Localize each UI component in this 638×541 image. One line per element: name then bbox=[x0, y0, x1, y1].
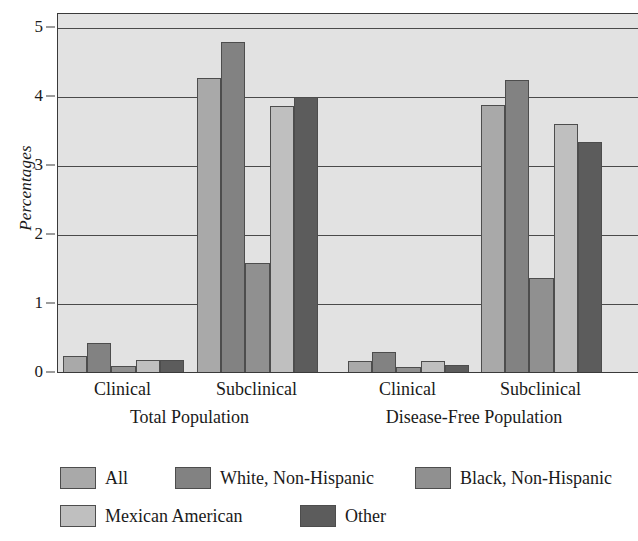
group-label-2: Clinical bbox=[379, 379, 436, 400]
legend-swatch-icon bbox=[175, 467, 211, 489]
bar bbox=[270, 106, 294, 373]
legend-label: Mexican American bbox=[105, 507, 242, 525]
bar bbox=[578, 142, 602, 373]
x-axis-line bbox=[57, 372, 638, 373]
legend-swatch-icon bbox=[60, 505, 96, 527]
plot-area bbox=[57, 13, 638, 373]
legend-swatch-icon bbox=[415, 467, 451, 489]
gridline-3 bbox=[58, 166, 638, 167]
bar bbox=[554, 124, 578, 373]
legend-label: White, Non-Hispanic bbox=[220, 469, 374, 487]
gridline-5 bbox=[58, 28, 638, 29]
legend-label: Other bbox=[345, 507, 386, 525]
chart-legend: AllWhite, Non-HispanicBlack, Non-Hispani… bbox=[60, 462, 638, 538]
group-label-1: Subclinical bbox=[216, 379, 297, 400]
legend-swatch-icon bbox=[60, 467, 96, 489]
bar bbox=[505, 80, 529, 373]
gridline-2 bbox=[58, 235, 638, 236]
y-tick-label: 0 bbox=[17, 362, 43, 382]
bar bbox=[197, 78, 221, 373]
plot-inner bbox=[58, 14, 638, 373]
y-tick-mark bbox=[46, 164, 55, 165]
legend-item[interactable]: Black, Non-Hispanic bbox=[415, 462, 612, 494]
legend-item[interactable]: White, Non-Hispanic bbox=[175, 462, 374, 494]
y-tick-mark bbox=[46, 372, 55, 373]
legend-label: All bbox=[105, 469, 128, 487]
bar bbox=[529, 278, 553, 373]
panel-label-0: Total Population bbox=[130, 407, 249, 428]
legend-item[interactable]: All bbox=[60, 462, 128, 494]
y-tick-mark bbox=[46, 233, 55, 234]
bar bbox=[87, 343, 111, 373]
group-label-3: Subclinical bbox=[500, 379, 581, 400]
y-tick-label: 5 bbox=[17, 17, 43, 37]
bar bbox=[63, 356, 87, 373]
bar bbox=[481, 105, 505, 373]
legend-row-1: Mexican AmericanOther bbox=[60, 500, 638, 532]
bar-chart-figure: Percentages 012345 ClinicalSubclinicalCl… bbox=[0, 0, 638, 541]
legend-row-0: AllWhite, Non-HispanicBlack, Non-Hispani… bbox=[60, 462, 638, 494]
legend-item[interactable]: Other bbox=[300, 500, 386, 532]
bar bbox=[245, 263, 269, 373]
legend-swatch-icon bbox=[300, 505, 336, 527]
y-tick-label: 3 bbox=[17, 155, 43, 175]
legend-label: Black, Non-Hispanic bbox=[460, 469, 612, 487]
y-tick-label: 4 bbox=[17, 86, 43, 106]
group-label-0: Clinical bbox=[94, 379, 151, 400]
y-tick-mark bbox=[46, 26, 55, 27]
bar bbox=[221, 42, 245, 373]
y-tick-mark bbox=[46, 95, 55, 96]
y-tick-label: 1 bbox=[17, 293, 43, 313]
bar bbox=[294, 97, 318, 373]
legend-item[interactable]: Mexican American bbox=[60, 500, 242, 532]
y-tick-mark bbox=[46, 302, 55, 303]
panel-label-1: Disease-Free Population bbox=[386, 407, 562, 428]
y-tick-label: 2 bbox=[17, 224, 43, 244]
bar bbox=[372, 352, 396, 373]
gridline-4 bbox=[58, 97, 638, 98]
